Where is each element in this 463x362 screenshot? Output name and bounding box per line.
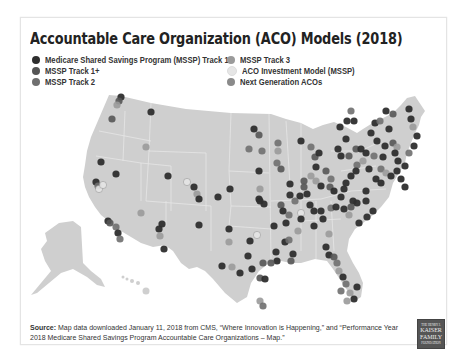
aco-marker (355, 219, 362, 226)
aco-marker (353, 199, 360, 206)
aco-marker (307, 143, 314, 150)
aco-marker (245, 145, 252, 152)
aco-marker (387, 172, 394, 179)
aco-marker (116, 235, 123, 242)
aco-marker (286, 191, 293, 198)
aco-marker (218, 262, 225, 269)
aco-marker (409, 123, 416, 130)
aco-marker (255, 131, 262, 138)
aco-marker (317, 182, 324, 189)
aco-marker (343, 297, 350, 304)
aco-marker (332, 203, 339, 210)
kff-logo: THE HENRY J. KAISER FAMILY FOUNDATION (417, 319, 445, 349)
logo-line-4: FOUNDATION (418, 341, 444, 345)
aco-marker (367, 129, 374, 136)
aco-marker (310, 207, 317, 214)
aco-marker (393, 167, 400, 174)
aco-marker (156, 232, 163, 239)
aco-marker (286, 180, 293, 187)
aco-marker (312, 163, 319, 170)
aco-marker (334, 145, 341, 152)
aco-marker (347, 203, 354, 210)
aco-marker (291, 197, 298, 204)
aco-marker (147, 108, 154, 115)
aco-marker (325, 230, 332, 237)
aco-marker (322, 243, 329, 250)
aco-marker (297, 215, 304, 222)
aco-marker (250, 125, 257, 132)
aco-marker (362, 197, 369, 204)
hawaii-shape (122, 276, 150, 295)
aco-marker (410, 142, 417, 149)
aco-marker (315, 149, 322, 156)
aco-marker (274, 147, 281, 154)
aco-marker (353, 283, 360, 290)
aco-marker (342, 135, 349, 142)
aco-marker (303, 190, 310, 197)
aco-marker (350, 117, 357, 124)
aco-marker (340, 185, 347, 192)
aco-marker (389, 110, 396, 117)
aco-marker (261, 275, 268, 282)
aco-marker (322, 167, 329, 174)
aco-marker (337, 193, 344, 200)
aco-marker (259, 302, 266, 309)
aco-marker (327, 175, 334, 182)
aco-marker (255, 167, 262, 174)
aco-marker (226, 185, 233, 192)
aco-marker (382, 107, 389, 114)
aco-marker (137, 209, 144, 216)
alaska-shape (31, 221, 105, 295)
aco-marker (285, 211, 292, 218)
aco-marker (297, 137, 304, 144)
source-prefix: Source: (30, 324, 56, 331)
aco-marker (190, 183, 197, 190)
aco-marker (362, 187, 369, 194)
aco-marker (99, 181, 106, 188)
aco-marker (225, 238, 232, 245)
aco-marker (369, 207, 376, 214)
aco-marker (342, 280, 349, 287)
aco-marker (345, 211, 352, 218)
aco-marker (282, 219, 289, 226)
aco-marker (347, 107, 354, 114)
aco-marker (97, 158, 104, 165)
aco-marker (195, 195, 202, 202)
aco-marker (319, 215, 326, 222)
aco-marker (413, 132, 420, 139)
aco-marker (381, 142, 388, 149)
aco-marker (272, 248, 279, 255)
figure-frame: Accountable Care Organization (ACO) Mode… (20, 17, 447, 345)
aco-marker (350, 295, 357, 302)
aco-marker (330, 187, 337, 194)
aco-marker (346, 289, 353, 296)
aco-marker (407, 115, 414, 122)
aco-marker (345, 152, 352, 159)
aco-marker (337, 287, 344, 294)
aco-marker (160, 245, 167, 252)
aco-marker (112, 170, 119, 177)
aco-marker (335, 267, 342, 274)
aco-marker (339, 273, 346, 280)
aco-marker (347, 172, 354, 179)
aco-marker (300, 183, 307, 190)
source-note: Source: Map data downloaded January 11, … (30, 323, 410, 343)
aco-marker (317, 207, 324, 214)
aco-marker (195, 221, 202, 228)
aco-marker (248, 265, 255, 272)
aco-marker (289, 250, 296, 257)
aco-marker (106, 219, 113, 226)
aco-marker (336, 123, 343, 130)
aco-marker (155, 225, 162, 232)
aco-marker (228, 263, 235, 270)
aco-marker (277, 165, 284, 172)
aco-marker (306, 201, 313, 208)
aco-marker (267, 259, 274, 266)
aco-marker (359, 157, 366, 164)
aco-marker (377, 179, 384, 186)
aco-marker (259, 259, 266, 266)
aco-marker (401, 183, 408, 190)
aco-marker (214, 193, 221, 200)
aco-marker (365, 165, 372, 172)
aco-marker (405, 105, 412, 112)
